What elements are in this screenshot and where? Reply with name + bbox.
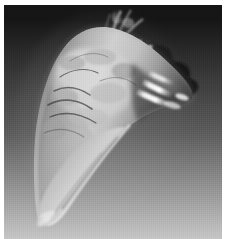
volume-render-image [4,5,222,239]
render-canvas-frame [4,5,222,239]
screenshot-root: Volume rendered grayscale specimen conic… [0,0,226,239]
